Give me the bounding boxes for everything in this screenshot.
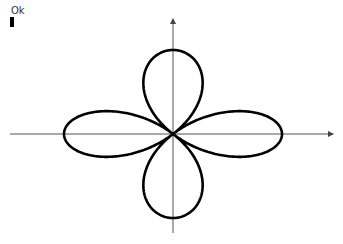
- quadrifolium-diagram: [0, 0, 343, 244]
